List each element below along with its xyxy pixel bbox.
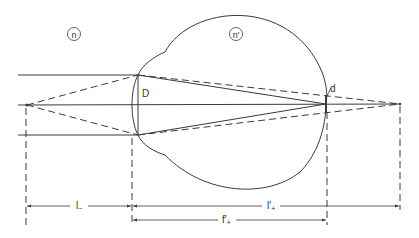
image-ray-top — [138, 75, 400, 104]
cornea-lower — [138, 135, 165, 155]
object-ray-top — [27, 75, 138, 105]
optical-axis — [18, 104, 400, 105]
cornea-upper — [138, 52, 165, 75]
svg-text:n': n' — [233, 30, 240, 40]
object-point — [26, 104, 29, 107]
medium-label-inside: n' — [230, 28, 243, 41]
image-ray-bottom — [138, 104, 400, 135]
globe-upper-arc — [165, 15, 327, 104]
image-point — [399, 103, 401, 105]
label-object-distance: l− — [76, 200, 82, 212]
label-pupil-diameter: D — [142, 88, 149, 99]
eye-outline — [132, 15, 327, 189]
label-focal-length: f'+ — [222, 214, 231, 226]
eye-optics-diagram: n n' D d l− l'+ f'+ — [0, 0, 419, 238]
medium-label-outside: n — [68, 28, 81, 41]
label-image-distance: l'+ — [267, 200, 275, 212]
refracted-ray-bottom — [138, 104, 326, 135]
svg-text:n: n — [71, 30, 76, 40]
refracted-ray-top — [138, 75, 326, 104]
label-blur-spot: d — [330, 83, 336, 94]
object-ray-bottom — [27, 105, 138, 135]
